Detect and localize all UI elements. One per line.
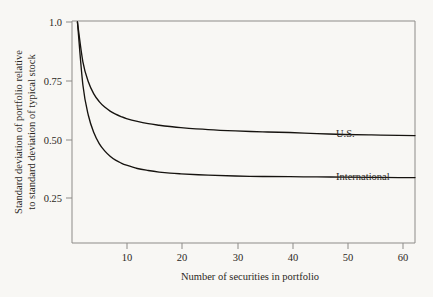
y-tick-label-050: 0.50: [44, 135, 62, 146]
y-axis-title-line1: Standard deviation of portfolio relative: [13, 50, 24, 214]
y-axis-ticks: [66, 22, 72, 198]
x-tick-label-30: 30: [233, 252, 244, 263]
y-tick-label-075: 0.75: [44, 76, 62, 87]
y-axis-tick-labels: 1.0 0.75 0.50 0.25: [44, 17, 62, 204]
chart-figure: 1.0 0.75 0.50 0.25 10 20 30 40 50 60 Num…: [0, 0, 433, 297]
plot-frame: [72, 21, 415, 243]
x-tick-label-40: 40: [288, 252, 299, 263]
x-tick-label-10: 10: [122, 252, 133, 263]
series-label-international: International: [336, 171, 390, 182]
series-label-us: U.S.: [336, 128, 355, 139]
x-axis-ticks: [127, 243, 403, 249]
series-line-us: [77, 22, 415, 136]
x-tick-label-20: 20: [177, 252, 188, 263]
x-tick-label-50: 50: [343, 252, 354, 263]
portfolio-diversification-chart: 1.0 0.75 0.50 0.25 10 20 30 40 50 60 Num…: [0, 0, 433, 297]
y-tick-label-025: 0.25: [44, 193, 62, 204]
y-axis-title-line2: to standard deviation of typical stock: [26, 54, 37, 210]
x-axis-title: Number of securities in portfolio: [181, 271, 319, 282]
x-axis-tick-labels: 10 20 30 40 50 60: [122, 252, 409, 263]
y-tick-label-1: 1.0: [49, 17, 62, 28]
y-axis-title: Standard deviation of portfolio relative…: [13, 50, 37, 214]
series-line-international: [77, 22, 415, 178]
data-curves: [77, 22, 415, 178]
x-tick-label-60: 60: [398, 252, 409, 263]
